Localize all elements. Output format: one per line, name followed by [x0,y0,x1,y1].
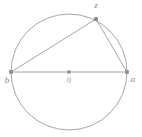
point-marker-a [125,70,129,74]
point-label-b: b [5,75,10,85]
point-label-a: a [131,74,136,84]
point-label-z: z [93,0,98,10]
chord-segment-bz [11,19,96,72]
point-marker-z [94,17,98,21]
point-marker-o [67,70,70,73]
circle-diagram-canvas: b 0 a z [0,0,142,137]
chord-segment-za [96,19,127,72]
point-marker-b [9,70,13,74]
point-label-origin: 0 [67,76,71,85]
geometry-figure: b 0 a z [0,0,142,137]
